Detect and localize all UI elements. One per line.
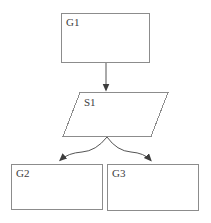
node-g1: G1 [62,14,150,63]
node-g3-label: G3 [112,167,126,179]
edge-s1-g2-arrow [61,137,108,160]
edge-s1-g3-arrow [107,137,151,160]
flowchart-svg: G1 S1 G2 G3 [0,0,211,223]
flowchart-canvas: G1 S1 G2 G3 [0,0,211,223]
node-g1-label: G1 [66,16,79,28]
node-s1-box [63,93,168,137]
node-g3: G3 [108,165,199,211]
node-g2: G2 [12,165,103,210]
node-s1: S1 [63,93,168,137]
node-s1-label: S1 [84,96,96,108]
node-g2-label: G2 [16,167,29,179]
